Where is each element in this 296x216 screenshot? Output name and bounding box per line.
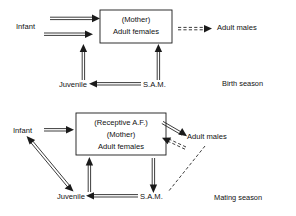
birth-node-juvenile: Juvenile (59, 80, 87, 89)
mating-box-line-2: (Mother) (107, 130, 136, 139)
birth-edge-sam-to-females (155, 44, 162, 80)
mating-edge-sam-to-juvenile (86, 192, 138, 199)
mating-node-juvenile: Juvenile (57, 192, 85, 201)
birth-edge-infant-to-females-upper (50, 15, 100, 23)
panel-mating-season: (Receptive A.F.) (Mother) Adult females … (13, 113, 227, 201)
birth-node-sam: S.A.M. (143, 80, 166, 89)
birth-box-line-2: Adult females (113, 27, 159, 36)
mating-node-adult-males: Adult males (187, 132, 227, 141)
panel-birth-season: (Mother) Adult females Infant Adult male… (16, 10, 257, 89)
mating-edge-females-to-sam (150, 158, 157, 193)
mating-box-line-3: Adult females (98, 142, 144, 151)
mating-edge-males-to-sam (168, 146, 205, 192)
mating-node-infant: Infant (13, 126, 33, 135)
birth-season-caption: Birth season (222, 79, 263, 88)
birth-node-adult-males: Adult males (217, 23, 257, 32)
birth-edge-juvenile-to-females (80, 44, 87, 80)
birth-box-line-1: (Mother) (122, 15, 151, 24)
mating-edge-juvenile-to-females (86, 157, 93, 192)
mating-box-line-1: (Receptive A.F.) (94, 118, 148, 127)
birth-edge-infant-to-females-lower (44, 31, 93, 39)
birth-node-infant: Infant (16, 22, 36, 31)
mating-node-sam: S.A.M. (140, 192, 163, 201)
diagram-svg: (Mother) Adult females Infant Adult male… (0, 0, 296, 216)
birth-edge-females-to-males (178, 25, 212, 32)
mating-season-caption: Mating season (214, 193, 262, 202)
mating-edge-infant-to-females (44, 126, 74, 134)
mating-edge-infant-juvenile (27, 136, 74, 192)
birth-edge-sam-to-juvenile (89, 80, 141, 87)
figure-canvas: (Mother) Adult females Infant Adult male… (0, 0, 296, 216)
